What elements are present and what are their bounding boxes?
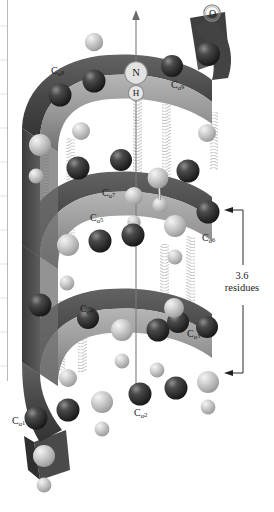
residue-label-ca8: Cα8	[51, 66, 64, 78]
residue-label-ca3-num: 3	[197, 332, 200, 339]
atom-label-N: N	[129, 66, 143, 79]
residue-label-ca3: Cα3	[187, 329, 200, 341]
residue-label-ca5-num: 5	[100, 216, 103, 223]
residue-label-ca1-c: C	[12, 415, 19, 426]
residue-count-unit: residues	[208, 282, 274, 294]
residue-label-ca4-c: C	[80, 303, 87, 314]
residue-label-ca9-num: 9	[181, 83, 184, 90]
atom-label-O: O	[206, 7, 219, 20]
residue-label-ca8-c: C	[51, 65, 58, 76]
atom-label-O-text: O	[209, 8, 216, 19]
atom-label-N-text: N	[132, 67, 140, 78]
residue-label-ca2: Cα2	[134, 408, 147, 420]
residue-label-ca7-num: 7	[112, 191, 115, 198]
residue-label-ca9: Cα9	[171, 80, 184, 92]
residue-count-value: 3.6	[208, 270, 274, 282]
figure-canvas: O N H Cα1 Cα2 Cα3 Cα4 Cα5 Cα6 Cα7 Cα8 Cα…	[0, 0, 274, 512]
residue-label-ca1: Cα1	[12, 416, 25, 428]
residue-label-ca2-c: C	[134, 407, 141, 418]
residue-label-ca1-num: 1	[22, 419, 25, 426]
residue-label-ca5: Cα5	[90, 213, 103, 225]
residue-label-ca2-num: 2	[144, 411, 147, 418]
residue-label-ca6-c: C	[202, 232, 209, 243]
residue-label-ca4: Cα4	[80, 304, 93, 316]
residue-label-ca8-num: 8	[61, 69, 64, 76]
residue-label-ca3-c: C	[187, 328, 194, 339]
residue-label-ca5-c: C	[90, 212, 97, 223]
atom-label-H-text: H	[133, 88, 140, 98]
residue-label-ca6-num: 6	[212, 236, 215, 243]
residue-label-ca9-c: C	[171, 79, 178, 90]
residue-count-annotation: 3.6 residues	[208, 270, 274, 294]
atom-label-H: H	[129, 87, 143, 99]
residue-label-ca6: Cα6	[202, 233, 215, 245]
residue-label-ca7: Cα7	[102, 188, 115, 200]
page-rule	[0, 0, 8, 381]
residue-label-ca4-num: 4	[90, 307, 93, 314]
residue-label-ca7-c: C	[102, 187, 109, 198]
